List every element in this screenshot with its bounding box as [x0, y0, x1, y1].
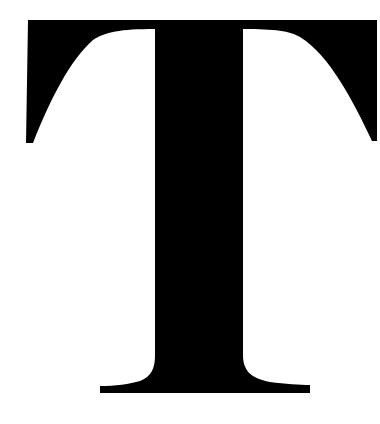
letter-t-glyph: T [0, 0, 380, 424]
letter-t-icon [0, 0, 380, 424]
